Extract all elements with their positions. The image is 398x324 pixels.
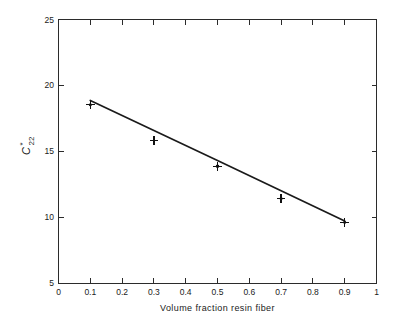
y-tick-label: 15 xyxy=(45,146,55,156)
y-tick-labels: 5 10 15 20 25 xyxy=(45,15,55,288)
y-axis-title-base: C xyxy=(20,147,32,155)
data-point-marker xyxy=(213,162,222,171)
x-tick-label: 1 xyxy=(374,287,379,297)
x-tick-label: 0.6 xyxy=(243,287,255,297)
x-tick-label: 0.8 xyxy=(307,287,319,297)
data-point-markers xyxy=(86,101,349,227)
x-tick-label: 0.2 xyxy=(116,287,128,297)
x-axis-ticks xyxy=(59,20,377,283)
plot-axes-frame xyxy=(59,20,377,284)
x-tick-label: 0.1 xyxy=(84,287,96,297)
x-tick-label: 0 xyxy=(56,287,61,297)
y-axis-ticks xyxy=(59,20,377,284)
y-axis-title: C * 22 xyxy=(18,136,36,155)
y-tick-label: 25 xyxy=(45,15,55,25)
y-tick-label: 5 xyxy=(49,278,54,288)
x-tick-label: 0.9 xyxy=(339,287,351,297)
y-tick-label: 20 xyxy=(45,80,55,90)
x-tick-label: 0.5 xyxy=(212,287,224,297)
x-axis-title: Volume fraction resin fiber xyxy=(160,303,275,313)
x-tick-label: 0.7 xyxy=(275,287,287,297)
x-tick-label: 0.3 xyxy=(148,287,160,297)
plot-svg: 0 0.1 0.2 0.3 0.4 0.5 0.6 0.7 0.8 0.9 1 … xyxy=(0,0,398,324)
fitted-line-series xyxy=(90,100,344,221)
y-tick-label: 10 xyxy=(45,212,55,222)
data-point-marker xyxy=(277,194,286,203)
x-tick-label: 0.4 xyxy=(180,287,192,297)
chart-figure: 0 0.1 0.2 0.3 0.4 0.5 0.6 0.7 0.8 0.9 1 … xyxy=(0,0,398,324)
x-tick-labels: 0 0.1 0.2 0.3 0.4 0.5 0.6 0.7 0.8 0.9 1 xyxy=(56,287,379,297)
y-axis-title-subscript: 22 xyxy=(27,136,36,145)
y-axis-title-superscript: * xyxy=(18,142,27,145)
data-point-marker xyxy=(150,136,159,145)
